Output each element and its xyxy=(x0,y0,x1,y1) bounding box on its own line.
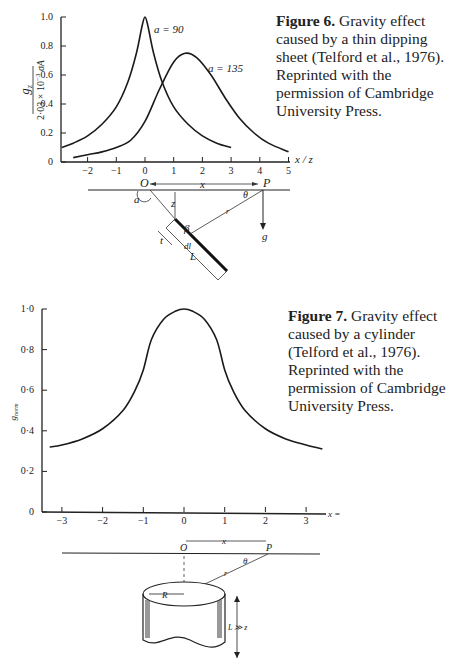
x-tick-label: 2 xyxy=(200,165,205,176)
label-alpha: a xyxy=(134,193,140,205)
x-tick-label: 3 xyxy=(304,515,309,526)
x-tick-label: 2 xyxy=(263,515,268,526)
y-tick-label: 1.0 xyxy=(41,11,54,22)
y-axis-label: gnorm xyxy=(8,403,19,421)
label-point: P xyxy=(262,176,271,190)
x-axis-label: x / z xyxy=(294,153,313,165)
x-tick-label: −2 xyxy=(82,165,93,176)
x-tick-label: 5 xyxy=(286,165,291,176)
svg-text:2·03 × 10−3 σA: 2·03 × 10−3 σA xyxy=(34,59,46,120)
svg-text:gnorm: gnorm xyxy=(8,403,19,421)
label-gravity: g xyxy=(262,230,268,242)
x-tick-label: 1 xyxy=(171,165,176,176)
label-theta: θ xyxy=(243,189,248,200)
label-beta: β xyxy=(183,222,190,234)
label-length: L xyxy=(189,250,196,262)
x-tick-label: −2 xyxy=(97,515,108,526)
y-tick-label: 0 xyxy=(29,506,34,517)
y-tick-label: 0.8 xyxy=(41,40,54,51)
diagram-cylinder: x O P r θ R L ≫ z xyxy=(62,536,320,658)
x-tick-label: 3 xyxy=(229,165,234,176)
figure-7-caption: Figure 7. Gravity effect caused by a cyl… xyxy=(288,307,456,415)
label-origin: O xyxy=(180,542,187,553)
label-depth: z xyxy=(170,197,176,209)
x-axis xyxy=(42,512,326,514)
y-tick-label: 0.2 xyxy=(41,127,54,138)
label-thickness: t xyxy=(160,234,164,246)
label-theta: θ xyxy=(243,556,248,566)
y-tick-label: 1·0 xyxy=(21,303,34,314)
x-tick-label: 4 xyxy=(257,165,262,176)
y-axis-label: gz 2·03 × 10−3 σA xyxy=(17,59,46,120)
label-element: dl xyxy=(184,241,192,251)
series-line-1 xyxy=(73,53,288,158)
annotation-a135: a = 135 xyxy=(208,62,243,74)
x-tick-label: 1 xyxy=(222,515,227,526)
y-tick-label: 0 xyxy=(48,156,53,167)
x-tick-label: 0 xyxy=(182,515,187,526)
y-tick-label: 0·6 xyxy=(21,384,34,395)
series-line-0 xyxy=(50,309,323,449)
annotation-a90: a = 90 xyxy=(154,23,184,35)
chart-figure-6: 00.20.40.60.81.0 −2−1012345 a = 90 a = 1… xyxy=(17,11,313,176)
x-tick-label: 0 xyxy=(143,165,148,176)
y-tick-label: 0·4 xyxy=(21,425,34,436)
y-tick-label: 0·2 xyxy=(21,465,34,476)
y-tick-label: 0·8 xyxy=(21,344,34,355)
label-radius: R xyxy=(161,590,168,600)
diagram-dipping-sheet: O P x z a L dl t r β θ g xyxy=(88,176,290,280)
caption-label: Figure 6. xyxy=(276,12,335,29)
figure-6-caption: Figure 6. Gravity effect caused by a thi… xyxy=(276,12,456,120)
ground-surface xyxy=(62,553,320,554)
series-line-0 xyxy=(62,17,231,148)
caption-label: Figure 7. xyxy=(288,307,347,324)
label-point: P xyxy=(265,542,272,553)
label-distance: x xyxy=(221,536,226,546)
x-tick-label: −1 xyxy=(138,515,149,526)
x-tick-label: −3 xyxy=(57,515,68,526)
label-origin: O xyxy=(140,176,149,190)
x-tick-label: −1 xyxy=(111,165,122,176)
label-range: r xyxy=(226,207,230,216)
label-length: L ≫ z xyxy=(227,623,248,632)
label-distance: x xyxy=(199,178,205,190)
svg-text:gz: gz xyxy=(17,84,34,95)
x-axis-label: x = xyxy=(327,509,340,519)
